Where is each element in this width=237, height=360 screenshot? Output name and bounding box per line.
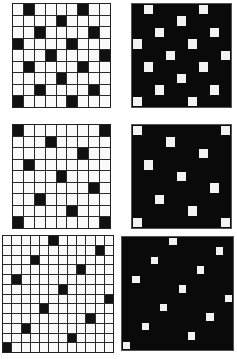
grid-cell [3, 295, 11, 304]
marked-cell [166, 51, 175, 60]
grid-cell [57, 96, 67, 107]
grid-cell [24, 125, 34, 136]
grid-cell [12, 236, 20, 245]
marked-cell [77, 265, 85, 274]
grid-cell [13, 50, 23, 61]
grid-cell [131, 303, 140, 312]
grid-cell [59, 314, 67, 323]
grid-cell [105, 334, 113, 343]
marked-cell [123, 342, 130, 349]
grid-cell [59, 246, 67, 255]
grid-cell [196, 303, 205, 312]
grid-panel-bottom-left [2, 235, 114, 353]
grid-cell [46, 194, 56, 205]
grid-cell [49, 295, 57, 304]
marked-cell [188, 39, 197, 48]
marked-cell [89, 27, 99, 38]
marked-cell [169, 238, 176, 245]
grid-cell [24, 50, 34, 61]
grid-cell [224, 246, 233, 255]
grid-cell [57, 62, 67, 73]
grid-cell [209, 96, 220, 107]
marked-cell [89, 183, 99, 194]
grid-cell [40, 334, 48, 343]
grid-cell [49, 285, 57, 294]
grid-cell [224, 312, 233, 321]
grid-cell [131, 237, 140, 246]
marked-cell [225, 295, 232, 302]
grid-cell [154, 217, 165, 228]
grid-cell [143, 27, 154, 38]
grid-cell [224, 341, 233, 350]
grid-cell [196, 237, 205, 246]
grid-cell [209, 61, 220, 72]
grid-cell [143, 125, 154, 136]
grid-cell [13, 16, 23, 27]
grid-cell [49, 275, 57, 284]
grid-cell [187, 275, 196, 284]
grid-cell [13, 171, 23, 182]
grid-cell [122, 312, 131, 321]
grid-cell [205, 341, 214, 350]
grid-cell [3, 256, 11, 265]
grid-cell [89, 171, 99, 182]
grid-cell [46, 96, 56, 107]
grid-cell [141, 237, 150, 246]
marked-cell [46, 50, 56, 61]
grid-cell [24, 194, 34, 205]
grid-cell [187, 73, 198, 84]
grid-cell [68, 275, 76, 284]
grid-cell [159, 294, 168, 303]
grid-cell [13, 85, 23, 96]
grid-cell [220, 205, 231, 216]
grid-cell [131, 246, 140, 255]
grid-cell [154, 15, 165, 26]
marked-cell [13, 125, 23, 136]
grid-cell [198, 182, 209, 193]
grid-cell [154, 148, 165, 159]
grid-cell [13, 73, 23, 84]
grid-cell [187, 15, 198, 26]
grid-cell [215, 303, 224, 312]
grid-cell [89, 73, 99, 84]
grid-cell [31, 295, 39, 304]
grid-cell [35, 96, 45, 107]
grid-cell [78, 50, 88, 61]
grid-cell [131, 341, 140, 350]
grid-cell [3, 304, 11, 313]
grid-cell [35, 73, 45, 84]
grid-cell [96, 343, 104, 352]
marked-cell [78, 62, 88, 73]
grid-cell [122, 303, 131, 312]
grid-cell [57, 206, 67, 217]
grid-cell [122, 284, 131, 293]
marked-cell [67, 39, 77, 50]
grid-cell [141, 256, 150, 265]
grid-cell [22, 343, 30, 352]
grid-cell [122, 256, 131, 265]
grid-cell [35, 148, 45, 159]
marked-cell [24, 160, 34, 171]
grid-cell [49, 314, 57, 323]
grid-cell [40, 236, 48, 245]
grid-cell [105, 343, 113, 352]
grid-cell [77, 236, 85, 245]
grid-cell [49, 265, 57, 274]
grid-cell [57, 50, 67, 61]
grid-cell [198, 15, 209, 26]
grid-cell [100, 183, 110, 194]
marked-cell [160, 304, 167, 311]
grid-cell [132, 148, 143, 159]
marked-cell [78, 4, 88, 15]
grid-cell [77, 324, 85, 333]
grid-cell [67, 27, 77, 38]
grid-cell [68, 295, 76, 304]
grid-cell [89, 16, 99, 27]
grid-cell [59, 265, 67, 274]
grid-cell [96, 275, 104, 284]
grid-cell [143, 217, 154, 228]
grid-cell [46, 16, 56, 27]
grid-cell [154, 136, 165, 147]
grid-cell [77, 275, 85, 284]
grid-cell [143, 171, 154, 182]
